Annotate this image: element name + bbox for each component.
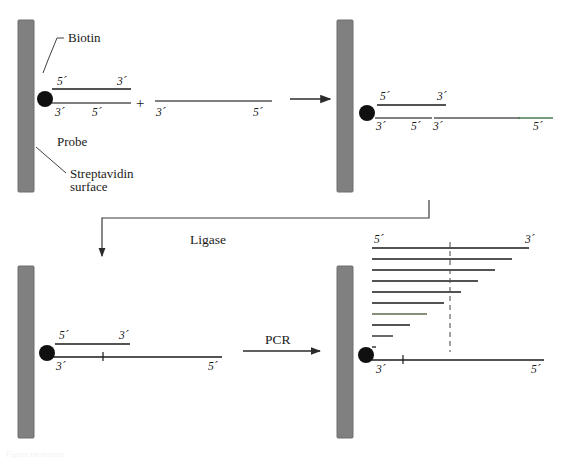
probe-label: Probe <box>57 134 88 149</box>
diagram-svg: Biotin Probe Streptavidin surface 5´ 3´ … <box>0 0 564 462</box>
streptavidin-support-bar-tl <box>18 20 34 192</box>
lower-label-2-tr: 5´ <box>411 120 421 132</box>
lower-label-3-tr: 3´ <box>432 120 443 132</box>
free-oligo-5prime: 5´ <box>253 106 263 118</box>
lower-5prime-bl: 5´ <box>208 360 218 372</box>
ligase-label: Ligase <box>190 232 226 247</box>
figure-canvas: Biotin Probe Streptavidin surface 5´ 3´ … <box>0 0 564 462</box>
panel-top-right: 5´ 3´ 3´ 5´ 3´ 5´ <box>337 20 553 192</box>
figure-caption: Figure recreation <box>6 450 64 459</box>
biotin-label: Biotin <box>68 30 101 45</box>
streptavidin-leader-line <box>36 147 66 173</box>
probe-3prime-upper-right-tr: 3´ <box>436 90 447 102</box>
biotin-bead-tl <box>37 91 53 107</box>
lower-3prime-bl: 3´ <box>55 360 66 372</box>
biotin-bead-bl <box>39 345 55 361</box>
lower-label-4-tr: 5´ <box>533 120 543 132</box>
panel-bottom-right: 5´ 3´ 3´ 5´ <box>337 233 544 438</box>
streptavidin-support-bar-bl <box>18 266 34 438</box>
ladder-5prime-left: 5´ <box>374 233 384 245</box>
streptavidin-support-bar-br <box>337 266 353 438</box>
probe-3prime-upper-right-bl: 3´ <box>118 329 129 341</box>
lower-label-1-tr: 3´ <box>375 120 386 132</box>
arrow-pcr: PCR <box>243 332 320 351</box>
ladder-3prime-right: 3´ <box>524 233 535 245</box>
biotin-bead-tr <box>359 105 375 121</box>
panel-top-left: Biotin Probe Streptavidin surface 5´ 3´ … <box>18 20 272 194</box>
free-oligo-3prime: 3´ <box>155 106 166 118</box>
template-5prime-right: 5´ <box>531 363 541 375</box>
streptavidin-support-bar-tr <box>337 20 353 192</box>
probe-3prime-upper-right-tl: 3´ <box>116 75 127 87</box>
pcr-label: PCR <box>265 332 291 347</box>
biotin-bead-br <box>358 347 374 363</box>
streptavidin-label-line2: surface <box>70 179 108 194</box>
probe-5prime-upper-left-tl: 5´ <box>57 75 67 87</box>
probe-3prime-lower-left-tl: 3´ <box>54 106 65 118</box>
probe-5prime-lower-right-tl: 5´ <box>92 106 102 118</box>
biotin-leader-line <box>43 38 64 73</box>
template-3prime-left: 3´ <box>375 363 386 375</box>
panel-bottom-left: 5´ 3´ 3´ 5´ <box>18 266 222 438</box>
plus-operator: + <box>136 95 144 111</box>
probe-5prime-upper-left-bl: 5´ <box>59 329 69 341</box>
probe-5prime-upper-left-tr: 5´ <box>380 90 390 102</box>
